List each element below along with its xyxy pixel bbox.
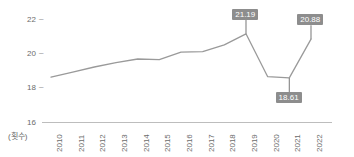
y-tick-mark-18: –	[39, 82, 43, 91]
y-tick-label-20: 20	[18, 49, 36, 58]
x-tick-label-2011: 2011	[77, 135, 86, 152]
x-tick-label-2020: 2020	[272, 134, 281, 152]
data-label-2022: 20.88	[297, 14, 323, 25]
y-tick-label-16: 16	[18, 118, 36, 127]
x-tick-label-2021: 2021	[293, 134, 302, 152]
data-label-2021: 18.61	[276, 92, 302, 103]
x-tick-label-2016: 2016	[185, 134, 194, 152]
x-tick-label-2012: 2012	[98, 134, 107, 152]
x-tick-label-2010: 2010	[55, 134, 64, 152]
y-tick-label-22: 22	[18, 15, 36, 24]
x-tick-label-2015: 2015	[163, 134, 172, 152]
x-tick-label-2018: 2018	[228, 134, 237, 152]
x-tick-label-2017: 2017	[207, 134, 216, 152]
x-tick-label-2019: 2019	[250, 134, 259, 152]
x-tick-label-2022: 2022	[315, 134, 324, 152]
y-tick-label-18: 18	[18, 83, 36, 92]
x-tick-label-2014: 2014	[142, 134, 151, 152]
x-tick-label-2013: 2013	[120, 134, 129, 152]
y-axis-unit-label: (횟수)	[8, 130, 27, 141]
series-line-frequency	[51, 34, 311, 78]
y-tick-mark-22: –	[39, 14, 43, 23]
line-chart: 22–20–18–16 2010201120122013201420152016…	[0, 0, 354, 157]
data-label-2019: 21.19	[232, 9, 258, 20]
y-tick-mark-20: –	[39, 48, 43, 57]
